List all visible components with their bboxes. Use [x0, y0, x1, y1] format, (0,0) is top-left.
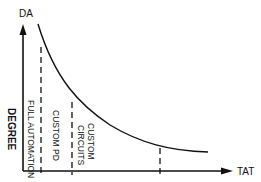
- x-axis-label: TAT: [237, 166, 254, 177]
- region-label-custom-pd: CUSTOM PD: [51, 110, 61, 161]
- region-label-full-automation: FULL AUTOMATION: [26, 100, 36, 178]
- y-axis-arrow-icon: [20, 24, 27, 35]
- side-label: DEGREE: [6, 108, 17, 151]
- x-axis-arrow-icon: [221, 168, 233, 175]
- region-label-circuits: CIRCUITS: [76, 125, 86, 165]
- region-label-custom: CUSTOM: [86, 123, 96, 160]
- y-axis-label: DA: [19, 8, 33, 19]
- da-tat-curve: [38, 24, 208, 152]
- degree-of-automation-diagram: DA TAT DEGREE FULL AUTOMATION CUSTOM PD …: [0, 0, 261, 182]
